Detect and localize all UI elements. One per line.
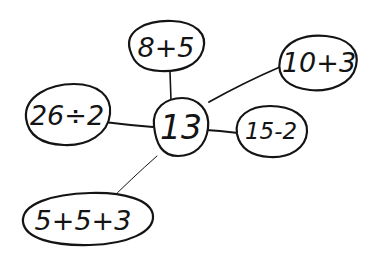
node-label: 8+5 (138, 32, 195, 63)
node-label: 26÷2 (30, 100, 104, 131)
node-label: 15-2 (245, 118, 297, 144)
node-5-plus-5-plus-3: 5+5+3 (23, 193, 153, 245)
node-15-minus-2: 15-2 (237, 106, 307, 157)
edge-center-to-10-plus-3 (209, 67, 280, 102)
center-node-label: 13 (160, 108, 202, 147)
node-label: 10+3 (282, 47, 356, 78)
node-label: 5+5+3 (35, 205, 132, 236)
edge-center-to-26-div-2 (104, 122, 153, 127)
node-26-div-2: 26÷2 (26, 84, 110, 145)
edge-center-to-15-minus-2 (206, 130, 238, 133)
edge-center-to-8-plus-5 (170, 72, 171, 101)
node-8-plus-5: 8+5 (129, 21, 204, 71)
spider-diagram: 8+5 10+3 26÷2 13 15-2 5+5+3 (0, 0, 376, 264)
center-node-13: 13 (154, 98, 208, 156)
node-10-plus-3: 10+3 (279, 36, 356, 91)
